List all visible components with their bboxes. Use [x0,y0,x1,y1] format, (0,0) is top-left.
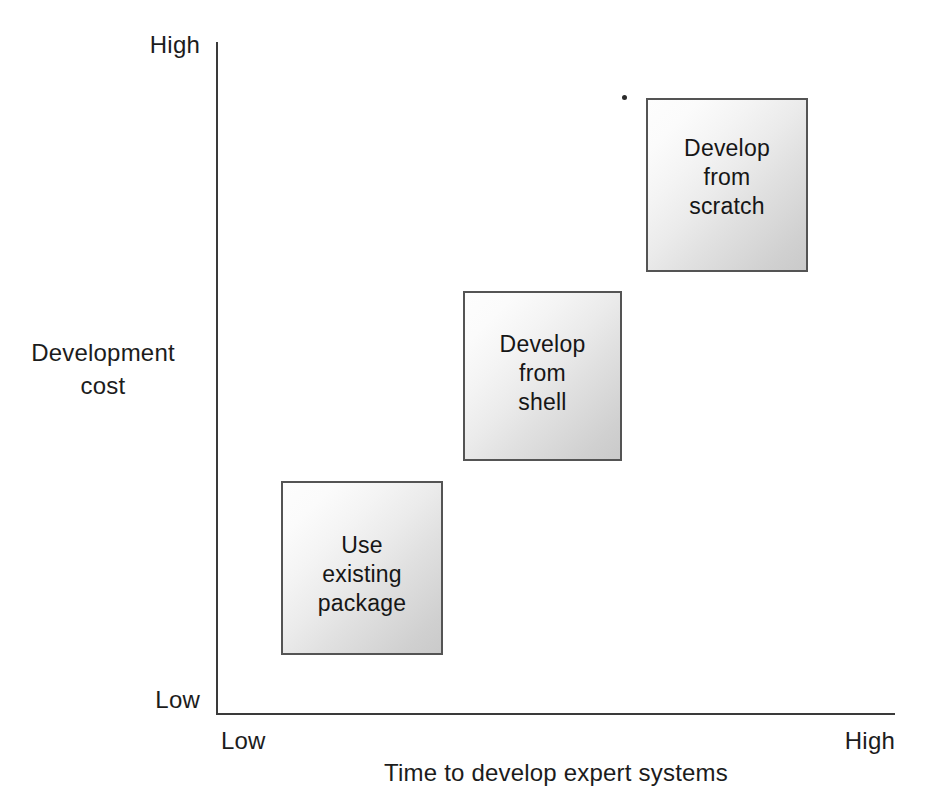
option-box-develop-from-scratch: Develop from scratch [646,98,808,272]
x-axis-high-tick-label: High [695,726,895,756]
expert-system-cost-time-chart: High Low Development cost Low High Time … [0,0,934,792]
option-box-develop-from-shell: Develop from shell [463,291,622,461]
y-axis-high-tick-label: High [0,30,200,60]
y-axis-title-line-2: cost [0,369,206,402]
x-axis-line [216,713,895,715]
y-axis-title: Development cost [0,336,206,402]
option-box-use-existing-package: Use existing package [281,481,443,655]
x-axis-title: Time to develop expert systems [217,758,895,788]
scan-artifact-speck [622,95,627,100]
y-axis-line [216,42,218,715]
option-box-label: Use existing package [318,531,406,618]
option-box-label: Develop from scratch [684,134,770,221]
x-axis-low-tick-label: Low [221,726,266,756]
y-axis-title-line-1: Development [0,336,206,369]
y-axis-low-tick-label: Low [0,685,200,715]
option-box-label: Develop from shell [500,330,586,417]
